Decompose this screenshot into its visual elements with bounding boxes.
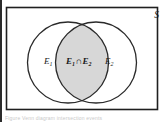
universe-set-label: S: [154, 11, 159, 21]
event-2-label: E2: [105, 57, 113, 66]
venn-diagram-figure: S E1 E1∩E2 E2 Figure Venn diagram inters…: [0, 0, 167, 122]
event-1-label: E1: [44, 57, 52, 66]
figure-caption-partial: Figure Venn diagram intersection events: [5, 114, 125, 122]
intersection-label: E1∩E2: [66, 57, 91, 66]
